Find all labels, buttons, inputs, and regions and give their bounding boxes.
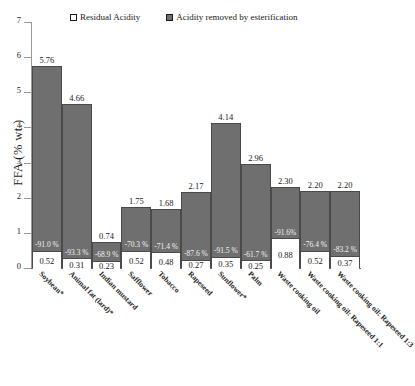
legend-label-acidity-removed: Acidity removed by esterification xyxy=(176,13,297,22)
segment-residual-acidity[interactable]: 0.25 xyxy=(242,260,270,270)
stacked-bar[interactable]: 2.30-91.6%0.88 xyxy=(271,187,301,268)
reduction-percent-label: -68.9 % xyxy=(93,251,121,259)
filled-square-icon xyxy=(166,14,173,21)
y-axis-tick: 5 xyxy=(24,92,31,93)
x-axis-tick-label: Sunflower* xyxy=(216,270,248,302)
y-axis-tick: 6 xyxy=(24,57,31,58)
bar-total-label: 1.68 xyxy=(152,199,180,208)
stacked-bar[interactable]: 2.96-61.7 %0.25 xyxy=(241,164,271,268)
bar-total-label: 2.20 xyxy=(331,181,359,190)
segment-residual-acidity[interactable]: 0.52 xyxy=(33,251,61,270)
reduction-percent-label: -61.7 % xyxy=(242,251,270,259)
y-axis-tick: 3 xyxy=(24,163,31,164)
stacked-bar[interactable]: 5.76-91.0 %0.52 xyxy=(32,66,62,268)
segment-acidity-removed[interactable]: -61.7 % xyxy=(242,165,270,260)
bar-total-label: 5.76 xyxy=(33,56,61,65)
segment-acidity-removed[interactable]: -87.6 % xyxy=(182,193,210,260)
plot-area: 5.76-91.0 %0.524.66-93.3 %0.310.74-68.9 … xyxy=(32,22,360,268)
bar-column[interactable]: 4.66-93.3 %0.31 xyxy=(62,22,92,268)
stacked-bar[interactable]: 4.14-91.5 %0.35 xyxy=(211,123,241,268)
reduction-percent-label: -93.3 % xyxy=(63,249,91,257)
y-axis-tick-label: 1 xyxy=(17,227,21,236)
reduction-percent-label: -76.4 % xyxy=(301,241,329,249)
x-axis-tick-label: Safflower xyxy=(127,270,154,297)
bar-column[interactable]: 2.17-87.6 %0.27 xyxy=(181,22,211,268)
segment-residual-acidity[interactable]: 0.88 xyxy=(272,238,300,270)
reduction-percent-label: -71.4 % xyxy=(152,243,180,251)
y-axis-tick-label: 5 xyxy=(17,86,21,95)
reduction-percent-label: -91.6% xyxy=(272,229,300,237)
y-axis-tick-label: 3 xyxy=(17,157,21,166)
segment-residual-acidity[interactable]: 0.52 xyxy=(301,251,329,270)
segment-residual-acidity[interactable]: 0.27 xyxy=(182,260,210,270)
bar-column[interactable]: 0.74-68.9 %0.23 xyxy=(92,22,122,268)
segment-acidity-removed[interactable]: -91.6% xyxy=(272,188,300,238)
bar-column[interactable]: 5.76-91.0 %0.52 xyxy=(32,22,62,268)
bar-total-label: 2.17 xyxy=(182,182,210,191)
legend-item-residual-acidity: Residual Acidity xyxy=(70,13,140,22)
reduction-percent-label: -91.0 % xyxy=(33,241,61,249)
bar-column[interactable]: 1.68-71.4 %0.48 xyxy=(151,22,181,268)
segment-residual-acidity[interactable]: 0.48 xyxy=(152,252,180,270)
segment-acidity-removed[interactable]: -83.2 % xyxy=(331,192,359,256)
segment-acidity-removed[interactable]: -70.3 % xyxy=(122,208,150,251)
y-axis-title: FFA (% wt.) xyxy=(11,83,26,223)
residual-value-label: 0.37 xyxy=(331,259,359,268)
stacked-bar[interactable]: 2.20-76.4 %0.52 xyxy=(300,191,330,268)
segment-acidity-removed[interactable]: -76.4 % xyxy=(301,192,329,251)
segment-residual-acidity[interactable]: 0.37 xyxy=(331,256,359,270)
residual-value-label: 0.27 xyxy=(182,261,210,270)
y-axis-tick: 7 xyxy=(24,22,31,23)
residual-value-label: 0.35 xyxy=(212,260,240,269)
y-axis-tick: 2 xyxy=(24,198,31,199)
bar-column[interactable]: 2.96-61.7 %0.25 xyxy=(241,22,271,268)
segment-acidity-removed[interactable]: -93.3 % xyxy=(63,105,91,258)
reduction-percent-label: -83.2 % xyxy=(331,246,359,254)
stacked-bar[interactable]: 4.66-93.3 %0.31 xyxy=(62,104,92,268)
stacked-bar[interactable]: 2.17-87.6 %0.27 xyxy=(181,192,211,268)
residual-value-label: 0.48 xyxy=(152,257,180,266)
segment-acidity-removed[interactable]: -91.5 % xyxy=(212,124,240,257)
bar-column[interactable]: 1.75-70.3 %0.52 xyxy=(121,22,151,268)
y-axis-tick: 0 xyxy=(24,268,31,269)
residual-value-label: 0.31 xyxy=(63,260,91,269)
bar-total-label: 4.14 xyxy=(212,113,240,122)
bar-column[interactable]: 2.30-91.6%0.88 xyxy=(271,22,301,268)
x-axis-tick-label: Palm xyxy=(246,270,263,287)
chart-legend: Residual Acidity Acidity removed by este… xyxy=(70,13,297,22)
y-axis-tick-label: 2 xyxy=(17,192,21,201)
reduction-percent-label: -87.6 % xyxy=(182,250,210,258)
bar-total-label: 2.30 xyxy=(272,177,300,186)
segment-acidity-removed[interactable]: -91.0 % xyxy=(33,67,61,251)
segment-acidity-removed[interactable]: -71.4 % xyxy=(152,210,180,252)
segment-acidity-removed[interactable]: -68.9 % xyxy=(93,243,121,261)
y-axis-tick-label: 7 xyxy=(17,16,21,25)
segment-residual-acidity[interactable]: 0.52 xyxy=(122,251,150,270)
bar-column[interactable]: 2.20-76.4 %0.52 xyxy=(300,22,330,268)
segment-residual-acidity[interactable]: 0.31 xyxy=(63,258,91,270)
stacked-bar[interactable]: 1.75-70.3 %0.52 xyxy=(121,207,151,269)
segment-residual-acidity[interactable]: 0.23 xyxy=(93,261,121,270)
x-axis-tick-label: Soybean* xyxy=(38,270,65,297)
bar-total-label: 0.74 xyxy=(93,232,121,241)
y-axis-tick-label: 4 xyxy=(17,121,21,130)
bar-column[interactable]: 4.14-91.5 %0.35 xyxy=(211,22,241,268)
bar-total-label: 2.96 xyxy=(242,154,270,163)
residual-value-label: 0.23 xyxy=(93,262,121,271)
x-axis-tick-label: Tobacco xyxy=(157,270,181,294)
bar-total-label: 4.66 xyxy=(63,94,91,103)
bar-column[interactable]: 2.20-83.2 %0.37 xyxy=(330,22,360,268)
segment-residual-acidity[interactable]: 0.35 xyxy=(212,257,240,270)
bar-total-label: 1.75 xyxy=(122,197,150,206)
stacked-bar[interactable]: 0.74-68.9 %0.23 xyxy=(92,242,122,268)
x-axis-tick-label: Rapeseed xyxy=(187,270,214,297)
x-axis-labels: Soybean*Animal fat (lard)*Indian mustard… xyxy=(32,270,360,386)
reduction-percent-label: -91.5 % xyxy=(212,247,240,255)
residual-value-label: 0.52 xyxy=(122,257,150,266)
stacked-bar[interactable]: 2.20-83.2 %0.37 xyxy=(330,191,360,268)
stacked-bar[interactable]: 1.68-71.4 %0.48 xyxy=(151,209,181,268)
legend-item-acidity-removed: Acidity removed by esterification xyxy=(166,13,297,22)
y-axis-tick-label: 0 xyxy=(17,262,21,271)
residual-value-label: 0.25 xyxy=(242,261,270,270)
